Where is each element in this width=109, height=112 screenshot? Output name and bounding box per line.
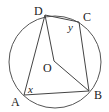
point-label-c: C bbox=[83, 10, 91, 24]
center-label-o: O bbox=[43, 61, 52, 75]
point-label-a: A bbox=[11, 95, 20, 109]
angle-label-x: x bbox=[27, 83, 33, 95]
point-label-d: D bbox=[34, 4, 43, 18]
segment-ab bbox=[24, 91, 89, 95]
segment-bc bbox=[79, 22, 89, 91]
point-label-b: B bbox=[94, 88, 102, 102]
angle-label-y: y bbox=[67, 21, 73, 33]
cyclic-quadrilateral-diagram: A B C D O x y bbox=[0, 0, 109, 112]
segment-do bbox=[45, 15, 54, 61]
segment-ob bbox=[54, 61, 89, 91]
